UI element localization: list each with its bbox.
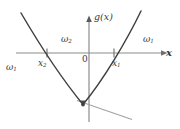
region-label-omega-1-right: ω1 xyxy=(143,35,154,45)
root-x2-subscript: 2 xyxy=(43,62,47,68)
region-label-omega-2-middle: ω2 xyxy=(61,35,72,45)
plot-canvas xyxy=(0,0,180,129)
tangent-line-at-vertex xyxy=(77,101,132,120)
y-axis-arrowhead xyxy=(86,16,92,23)
root-x1-subscript: 1 xyxy=(117,62,121,68)
omega-subscript-left: 1 xyxy=(13,66,17,72)
x-axis-label: x xyxy=(166,48,172,58)
omega-subscript-mid: 2 xyxy=(68,38,72,44)
root-label-x2: x2 xyxy=(38,59,47,69)
region-label-omega-1-left: ω1 xyxy=(6,63,17,73)
discriminant-function-figure: ω1 ω2 ω1 x2 x1 0 x g(x) xyxy=(0,0,180,129)
y-axis xyxy=(86,16,92,123)
root-label-x1: x1 xyxy=(112,59,121,69)
omega-subscript-right: 1 xyxy=(150,38,154,44)
y-axis-label: g(x) xyxy=(94,12,113,22)
origin-label: 0 xyxy=(82,55,88,64)
x-axis xyxy=(16,50,168,56)
